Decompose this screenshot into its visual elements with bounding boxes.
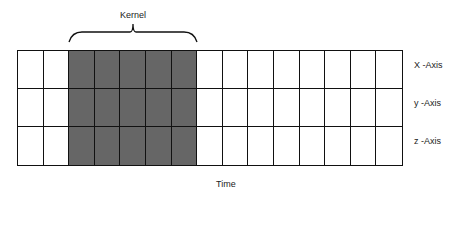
kernel-cell (172, 127, 198, 165)
kernel-cell (69, 127, 95, 165)
grid-cell (18, 51, 44, 89)
grid-cell (44, 89, 70, 127)
grid-cell (274, 127, 300, 165)
kernel-cell (146, 127, 172, 165)
grid-cell (18, 127, 44, 165)
kernel-cell (120, 51, 146, 89)
grid-cell (223, 127, 249, 165)
grid-cell (300, 127, 326, 165)
grid-cell (274, 89, 300, 127)
grid-cell (44, 127, 70, 165)
grid-cell (351, 89, 377, 127)
grid-cell (325, 51, 351, 89)
kernel-cell (172, 89, 198, 127)
grid-cell (376, 89, 402, 127)
kernel-cell (95, 51, 121, 89)
kernel-cell (146, 89, 172, 127)
grid-cell (248, 89, 274, 127)
grid-cell (18, 89, 44, 127)
row-label-y-axis: y -Axis (414, 98, 441, 108)
grid-cell (223, 89, 249, 127)
grid-cell (376, 127, 402, 165)
grid-cell (197, 89, 223, 127)
kernel-cell (146, 51, 172, 89)
grid-cell (248, 127, 274, 165)
sensor-window-grid (17, 50, 403, 166)
kernel-cell (95, 127, 121, 165)
kernel-cell (69, 51, 95, 89)
grid-cell (300, 89, 326, 127)
grid-cell (351, 51, 377, 89)
kernel-cell (120, 89, 146, 127)
grid-cell (197, 127, 223, 165)
kernel-cell (95, 89, 121, 127)
grid-cell (300, 51, 326, 89)
grid-cell (223, 51, 249, 89)
kernel-cell (172, 51, 198, 89)
grid-cell (274, 51, 300, 89)
grid-cell (44, 51, 70, 89)
grid-cell (197, 51, 223, 89)
time-axis-label: Time (216, 179, 236, 189)
grid-cell (325, 127, 351, 165)
row-label-z-axis: z -Axis (414, 136, 441, 146)
kernel-cell (120, 127, 146, 165)
grid-cell (376, 51, 402, 89)
grid-cell (248, 51, 274, 89)
kernel-cell (69, 89, 95, 127)
grid-cell (325, 89, 351, 127)
row-label-x-axis: X -Axis (414, 60, 443, 70)
grid-cell (351, 127, 377, 165)
